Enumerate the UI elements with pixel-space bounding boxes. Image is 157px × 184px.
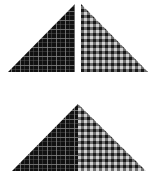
triangle-diagram [0, 0, 157, 184]
top-left-dark-triangle [8, 4, 75, 72]
joined-dark-half [12, 104, 78, 171]
joined-light-half [78, 104, 146, 171]
joined-triangle [12, 104, 146, 171]
top-right-light-triangle [81, 4, 148, 72]
